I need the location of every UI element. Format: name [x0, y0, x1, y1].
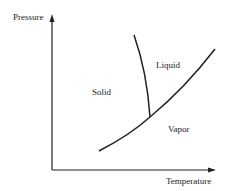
fusion-curve: [134, 35, 150, 117]
region-solid-label: Solid: [92, 88, 111, 97]
region-liquid-label: Liquid: [156, 61, 180, 70]
y-axis-arrow-icon: [50, 14, 55, 22]
x-axis-label: Temperature: [166, 177, 211, 186]
y-axis-label: Pressure: [13, 13, 44, 22]
region-vapor-label: Vapor: [168, 125, 190, 134]
phase-diagram: [0, 0, 228, 191]
x-axis-arrow-icon: [208, 168, 216, 173]
